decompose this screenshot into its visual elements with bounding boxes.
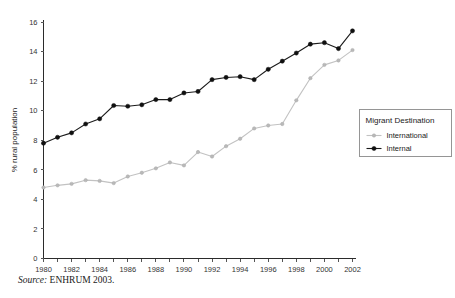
data-point	[84, 178, 87, 181]
data-point	[41, 141, 45, 145]
data-point	[182, 164, 185, 167]
data-point	[322, 41, 326, 45]
chart-figure: 0246810121416 19801982198419861988199019…	[0, 0, 455, 298]
x-tick-label: 1982	[63, 265, 80, 274]
data-point	[280, 59, 284, 63]
data-point	[140, 171, 143, 174]
y-tick-label: 16	[29, 18, 37, 27]
y-tick-label: 12	[29, 77, 37, 86]
data-point	[323, 63, 326, 66]
x-tick-label: 1984	[91, 265, 108, 274]
data-point	[69, 131, 73, 135]
data-point	[281, 122, 284, 125]
data-point	[42, 186, 45, 189]
source-keyword: Source:	[18, 275, 47, 285]
data-point	[224, 75, 228, 79]
data-point	[210, 155, 213, 158]
data-point	[154, 167, 157, 170]
data-point	[196, 89, 200, 93]
x-tick-label: 2000	[316, 265, 333, 274]
data-point	[140, 103, 144, 107]
y-tick-label: 4	[33, 195, 37, 204]
x-tick-label: 1990	[176, 265, 193, 274]
chart-legend[interactable]: Migrant DestinationInternationalInternal	[360, 110, 452, 157]
source-value: ENHRUM 2003.	[47, 275, 114, 285]
data-point	[224, 144, 227, 147]
x-tick-label: 1996	[260, 265, 277, 274]
data-point	[56, 184, 59, 187]
data-point	[168, 98, 172, 102]
legend-label: International	[387, 131, 429, 140]
y-axis-title: % rural population	[10, 108, 19, 172]
x-tick-label: 1988	[148, 265, 165, 274]
data-point	[112, 103, 116, 107]
legend-label: Internal	[387, 144, 412, 153]
data-point	[196, 150, 199, 153]
data-point	[336, 47, 340, 51]
data-point	[337, 59, 340, 62]
x-tick-label: 1986	[119, 265, 136, 274]
data-point	[351, 48, 354, 51]
y-tick-label: 8	[33, 136, 37, 145]
data-point	[238, 137, 241, 140]
data-point	[126, 104, 130, 108]
line-chart-plot: 0246810121416 19801982198419861988199019…	[0, 0, 455, 298]
x-tick-label: 1994	[232, 265, 249, 274]
data-point	[252, 78, 256, 82]
x-tick-label: 1980	[35, 265, 52, 274]
data-point	[266, 67, 270, 71]
data-point	[210, 78, 214, 82]
y-tick-label: 14	[29, 47, 37, 56]
source-caption: Source: ENHRUM 2003.	[18, 275, 115, 285]
data-point	[84, 122, 88, 126]
y-tick-label: 6	[33, 166, 37, 175]
legend-marker	[372, 134, 375, 137]
data-point	[309, 76, 312, 79]
data-point	[267, 124, 270, 127]
y-tick-label: 0	[33, 254, 37, 263]
x-tick-label: 1992	[204, 265, 221, 274]
data-point	[126, 175, 129, 178]
x-tick-label: 1998	[288, 265, 305, 274]
data-point	[168, 161, 171, 164]
data-point	[182, 91, 186, 95]
data-point	[238, 75, 242, 79]
y-tick-label: 10	[29, 106, 37, 115]
data-point	[154, 98, 158, 102]
data-point	[294, 51, 298, 55]
data-point	[308, 42, 312, 46]
data-point	[350, 29, 354, 33]
data-point	[98, 179, 101, 182]
legend-marker	[372, 146, 376, 150]
y-tick-label: 2	[33, 225, 37, 234]
data-point	[252, 127, 255, 130]
data-point	[295, 99, 298, 102]
x-tick-label: 2002	[344, 265, 361, 274]
data-point	[55, 135, 59, 139]
data-point	[98, 117, 102, 121]
data-point	[112, 181, 115, 184]
data-point	[70, 182, 73, 185]
legend-title: Migrant Destination	[366, 116, 435, 125]
